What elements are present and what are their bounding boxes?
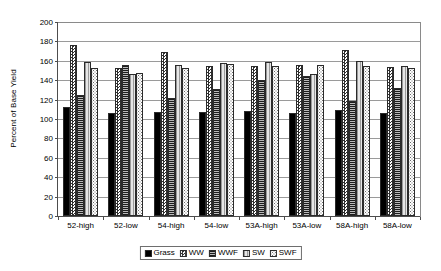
bar-swf-54-low: [227, 64, 234, 216]
legend-swatch-grass-icon: [144, 250, 151, 257]
plot-frame-right: [420, 22, 421, 217]
y-axis-tick-label: 160: [27, 56, 53, 65]
x-axis-tick-mark: [330, 217, 331, 220]
legend-swatch-wwf-icon: [209, 250, 216, 257]
bar-sw-54-high: [175, 65, 182, 216]
bar-wwf-53a-high: [258, 80, 265, 216]
bar-swf-52-high: [91, 68, 98, 216]
legend-item-grass: Grass: [144, 249, 174, 257]
bar-wwf-54-low: [213, 89, 220, 216]
bar-swf-52-low: [136, 73, 143, 216]
y-axis-tick-mark: [55, 100, 58, 101]
x-axis-tick-label: 58A-high: [336, 221, 368, 230]
y-axis-tick-mark: [55, 80, 58, 81]
bar-swf-54-high: [182, 68, 189, 216]
y-axis-tick-label: 20: [27, 192, 53, 201]
bars-layer: [58, 22, 420, 216]
y-axis-tick-label: 60: [27, 153, 53, 162]
bar-sw-52-high: [84, 62, 91, 216]
y-axis-tick-labels: 020406080100120140160180200: [25, 22, 53, 216]
legend-label: Grass: [153, 249, 174, 257]
bar-ww-52-high: [70, 45, 77, 216]
x-axis-tick-label: 53A-low: [292, 221, 321, 230]
y-axis-tick-label: 140: [27, 76, 53, 85]
x-axis-tick-mark: [239, 217, 240, 220]
legend-label: SWF: [279, 249, 297, 257]
y-axis-tick-mark: [55, 41, 58, 42]
bar-wwf-52-high: [77, 95, 84, 216]
y-axis-tick-mark: [55, 22, 58, 23]
bar-group: [194, 22, 239, 216]
y-axis-tick-label: 80: [27, 134, 53, 143]
bar-group: [330, 22, 375, 216]
x-axis-tick-mark: [58, 217, 59, 220]
y-axis-tick-mark: [55, 61, 58, 62]
x-axis-tick-mark: [194, 217, 195, 220]
bar-swf-58a-low: [408, 68, 415, 216]
y-axis-tick-mark: [55, 177, 58, 178]
bar-group: [375, 22, 420, 216]
legend-item-swf: SWF: [270, 249, 297, 257]
legend-item-sw: SW: [243, 249, 265, 257]
bar-ww-58a-low: [387, 67, 394, 216]
legend-swatch-swf-icon: [270, 250, 277, 257]
bar-grass-53a-high: [244, 111, 251, 216]
bar-swf-58a-high: [363, 66, 370, 216]
x-axis-tick-label: 53A-high: [246, 221, 278, 230]
x-axis-tick-mark: [284, 217, 285, 220]
legend-swatch-ww-icon: [180, 250, 187, 257]
legend-label: SW: [252, 249, 265, 257]
y-axis-tick-mark: [55, 197, 58, 198]
x-axis-tick-labels: 52-high52-low54-high54-low53A-high53A-lo…: [58, 221, 420, 235]
x-axis-tick-label: 54-low: [205, 221, 229, 230]
legend-label: WWF: [218, 249, 238, 257]
bar-group: [103, 22, 148, 216]
bar-wwf-54-high: [168, 98, 175, 216]
bar-group: [58, 22, 103, 216]
y-axis-tick-label: 40: [27, 173, 53, 182]
bar-wwf-52-low: [122, 65, 129, 216]
bar-grass-52-low: [108, 113, 115, 216]
y-axis-tick-mark: [55, 138, 58, 139]
bar-grass-58a-high: [335, 110, 342, 216]
bar-grass-52-high: [63, 107, 70, 216]
y-axis-tick-mark: [55, 119, 58, 120]
bar-ww-52-low: [115, 68, 122, 216]
chart-legend: GrassWWWWFSWSWF: [139, 246, 301, 260]
y-axis-tick-label: 200: [27, 18, 53, 27]
legend-item-ww: WW: [180, 249, 204, 257]
bar-wwf-58a-low: [394, 88, 401, 216]
x-axis-tick-mark: [149, 217, 150, 220]
y-axis-tick-label: 120: [27, 95, 53, 104]
bar-ww-53a-high: [251, 66, 258, 216]
bar-grass-53a-low: [289, 113, 296, 216]
bar-grass-54-low: [199, 112, 206, 216]
bar-group: [284, 22, 329, 216]
legend-item-wwf: WWF: [209, 249, 238, 257]
legend-swatch-sw-icon: [243, 250, 250, 257]
bar-group: [149, 22, 194, 216]
bar-swf-53a-high: [272, 66, 279, 216]
bar-group: [239, 22, 284, 216]
y-axis-tick-mark: [55, 158, 58, 159]
bar-sw-58a-low: [401, 66, 408, 216]
x-axis-tick-mark: [420, 217, 421, 220]
x-axis-tick-label: 58A-low: [383, 221, 412, 230]
bar-sw-52-low: [129, 74, 136, 216]
bar-sw-58a-high: [356, 61, 363, 216]
x-axis-tick-label: 54-high: [158, 221, 185, 230]
x-axis-tick-label: 52-low: [114, 221, 138, 230]
y-axis-tick-label: 0: [27, 212, 53, 221]
bar-wwf-53a-low: [303, 76, 310, 216]
y-axis-title-text: Percent of Base Yield: [9, 69, 18, 148]
y-axis-tick-label: 180: [27, 37, 53, 46]
bar-sw-54-low: [220, 63, 227, 216]
bar-grass-54-high: [154, 112, 161, 216]
bar-ww-54-low: [206, 66, 213, 216]
bar-sw-53a-high: [265, 62, 272, 216]
bar-ww-54-high: [161, 52, 168, 216]
bar-ww-58a-high: [342, 50, 349, 216]
bar-wwf-58a-high: [349, 101, 356, 216]
bar-chart: Percent of Base Yield 020406080100120140…: [0, 0, 441, 271]
bar-sw-53a-low: [310, 74, 317, 216]
